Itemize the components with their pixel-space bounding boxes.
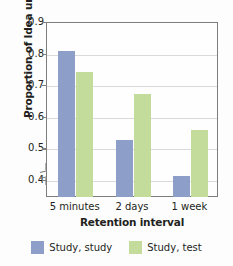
bar-chart-figure: Proportion of Idea units recalled 0.40.5…	[0, 0, 233, 266]
bar	[134, 94, 151, 197]
legend-swatch-icon	[129, 241, 142, 254]
y-tick-label: 0.7	[18, 80, 44, 90]
y-tick-label: 0.9	[18, 17, 44, 27]
x-axis-title: Retention interval	[46, 216, 218, 228]
y-tick-label: 0.5	[18, 143, 44, 153]
legend-item: Study, test	[129, 241, 201, 254]
x-tick-label: 1 week	[149, 201, 229, 212]
legend-swatch-icon	[31, 241, 44, 254]
legend-label: Study, study	[49, 242, 112, 253]
chart-legend: Study, studyStudy, test	[0, 241, 233, 254]
legend-label: Study, test	[147, 242, 201, 253]
bar	[76, 72, 93, 197]
bar	[173, 176, 190, 196]
bar	[116, 140, 133, 197]
y-tick-label: 0.8	[18, 49, 44, 59]
y-tick-label: 0.6	[18, 112, 44, 122]
bar	[191, 130, 208, 196]
legend-item: Study, study	[31, 241, 112, 254]
plot-area	[46, 22, 218, 197]
bar	[58, 51, 75, 196]
